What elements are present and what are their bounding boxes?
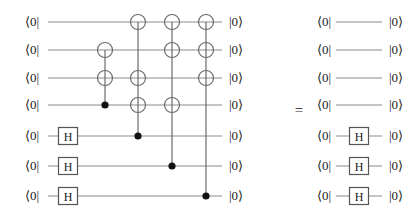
hadamard-label-wire-7: H [355, 191, 364, 203]
ket-label-wire-4: |0⟩ [389, 97, 403, 113]
bra-label-wire-6: ⟨0| [317, 158, 331, 174]
right-circuit: ⟨0||0⟩⟨0||0⟩⟨0||0⟩⟨0||0⟩⟨0||0⟩⟨0||0⟩⟨0||… [0, 0, 418, 223]
ket-label-wire-7: |0⟩ [389, 188, 403, 204]
bra-label-wire-7: ⟨0| [317, 188, 331, 204]
bra-label-wire-2: ⟨0| [317, 42, 331, 58]
ket-label-wire-2: |0⟩ [389, 42, 403, 58]
ket-label-wire-1: |0⟩ [389, 14, 403, 30]
bra-label-wire-4: ⟨0| [317, 97, 331, 113]
bra-label-wire-1: ⟨0| [317, 14, 331, 30]
ket-label-wire-3: |0⟩ [389, 70, 403, 86]
ket-label-wire-6: |0⟩ [389, 158, 403, 174]
hadamard-label-wire-6: H [355, 161, 364, 173]
hadamard-label-wire-5: H [355, 131, 364, 143]
quantum-circuit-figure: ⟨0||0⟩⟨0||0⟩⟨0||0⟩⟨0||0⟩⟨0||0⟩⟨0||0⟩⟨0||… [0, 0, 418, 223]
bra-label-wire-5: ⟨0| [317, 128, 331, 144]
ket-label-wire-5: |0⟩ [389, 128, 403, 144]
bra-label-wire-3: ⟨0| [317, 70, 331, 86]
